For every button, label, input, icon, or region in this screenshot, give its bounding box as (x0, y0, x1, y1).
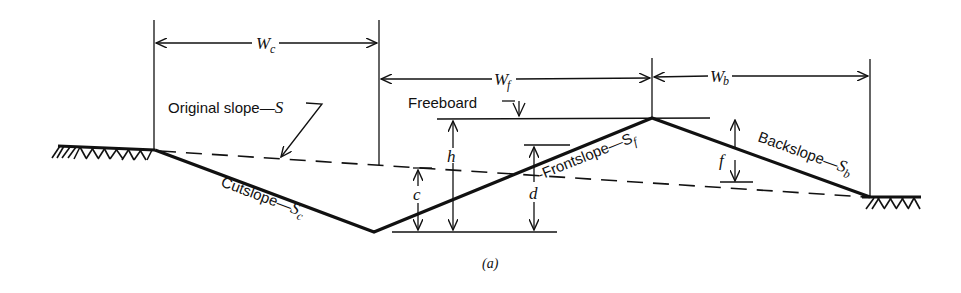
c-symbol: c (413, 185, 421, 204)
wf-subscript: f (507, 78, 512, 92)
d-symbol: d (529, 184, 538, 203)
width-dimension-wb: W b (654, 67, 868, 88)
ground-hatch-right-icon (862, 197, 921, 209)
h-symbol: h (447, 147, 456, 166)
width-dimension-wf: W f (381, 70, 650, 92)
original-slope-label: Original slope—S (168, 98, 284, 117)
cutslope-label: Cutslope—Sc (218, 172, 309, 224)
f-symbol: f (719, 151, 726, 170)
width-dimension-wc: W c (156, 34, 377, 56)
wc-subscript: c (270, 42, 276, 56)
freeboard-pointer (502, 101, 525, 116)
ground-hatch-left-icon (52, 146, 155, 160)
original-slope-leader (281, 103, 322, 157)
frontslope-label: -Frontslope—Sf (535, 127, 641, 186)
freeboard-label: Freeboard (408, 94, 477, 111)
channel-cross-section-diagram: W c W f W b h c d f Freeboard Ori (0, 0, 961, 293)
wb-subscript: b (723, 74, 729, 88)
figure-caption: (a) (482, 256, 499, 272)
